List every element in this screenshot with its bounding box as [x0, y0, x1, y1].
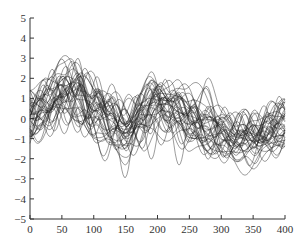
x-tick-label: 400 [277, 223, 294, 235]
x-tick-label: 300 [213, 223, 230, 235]
x-tick-label: 200 [149, 223, 166, 235]
x-tick-label: 100 [86, 223, 103, 235]
y-tick-label: 3 [21, 52, 27, 64]
x-tick-label: 150 [117, 223, 134, 235]
y-tick-label: −3 [14, 173, 26, 185]
y-tick-label: −2 [14, 153, 26, 165]
y-tick-label: 2 [21, 72, 27, 84]
y-tick-label: 0 [21, 113, 27, 125]
x-tick-label: 0 [27, 223, 33, 235]
y-tick-label: −1 [14, 133, 26, 145]
y-tick-label: −5 [14, 213, 26, 225]
x-tick-label: 350 [245, 223, 262, 235]
y-tick-label: 1 [21, 92, 27, 104]
x-tick-label: 250 [181, 223, 198, 235]
series-lines [30, 56, 285, 178]
x-tick-label: 50 [56, 223, 68, 235]
y-tick-label: 5 [21, 12, 27, 24]
y-ticks: −5−4−3−2−1012345 [14, 12, 34, 225]
line-chart: −5−4−3−2−1012345 05010015020025030035040… [0, 0, 306, 244]
y-tick-label: 4 [21, 32, 27, 44]
y-tick-label: −4 [14, 193, 26, 205]
x-ticks: 050100150200250300350400 [27, 215, 294, 235]
